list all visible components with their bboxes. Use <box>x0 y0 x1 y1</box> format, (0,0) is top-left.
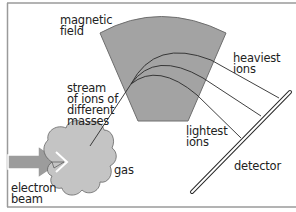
label-heaviest-ions: heaviest ions <box>233 53 280 75</box>
label-electron-beam: electron beam <box>11 183 56 205</box>
label-lightest-ions: lightest ions <box>186 126 227 148</box>
label-ion-stream: stream of ions of different masses <box>67 83 118 127</box>
label-gas: gas <box>114 165 134 176</box>
label-magnetic-field: magnetic field <box>60 15 112 37</box>
label-detector: detector <box>234 161 281 172</box>
